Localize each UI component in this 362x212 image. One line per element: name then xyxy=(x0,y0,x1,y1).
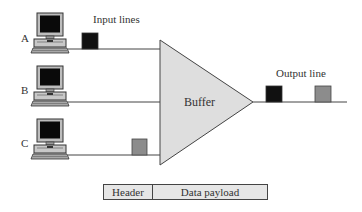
packet-c-gray xyxy=(132,139,147,155)
buffer-label: Buffer xyxy=(184,95,215,109)
computer-icon-c xyxy=(31,119,69,159)
packet-format: Header Data payload xyxy=(103,184,268,200)
output-packet-black xyxy=(266,86,282,102)
host-label-a: A xyxy=(21,32,29,44)
packet-a-black xyxy=(82,33,98,49)
host-label-c: C xyxy=(21,137,28,149)
diagram-canvas: Buffer xyxy=(0,0,362,212)
output-line-label: Output line xyxy=(276,67,326,79)
packet-payload-field: Data payload xyxy=(153,185,267,199)
output-packet-gray xyxy=(315,86,331,102)
computer-icon-b xyxy=(31,66,69,106)
input-lines-label: Input lines xyxy=(93,13,140,25)
computer-icon-a xyxy=(31,13,69,53)
host-label-b: B xyxy=(21,84,28,96)
packet-header-field: Header xyxy=(104,185,153,199)
